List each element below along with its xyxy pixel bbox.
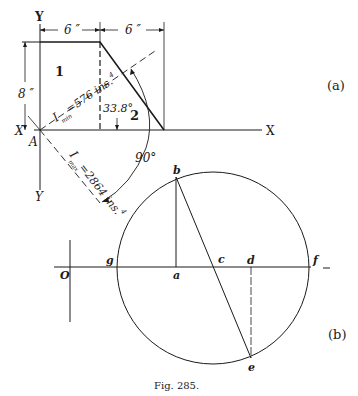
y-axis-label-bottom: Y <box>35 190 44 204</box>
figure-caption: Fig. 285. <box>154 380 199 391</box>
dim-height: 8 ″ <box>18 87 34 101</box>
point-c-label: c <box>218 253 225 266</box>
arrow-icon <box>23 42 27 47</box>
point-e-label: e <box>248 361 255 374</box>
origin-label-o: O <box>60 269 70 282</box>
part-b-label: (b) <box>328 327 346 342</box>
arrow-icon <box>159 28 164 32</box>
mohr-circle-diagram: O g a c d f b e (b) Fig. 285. <box>54 164 346 391</box>
mohr-circle-figure: 6 ″ 6 ″ 8 ″ Y Y X X A 1 2 33.8° I min =5… <box>0 0 358 396</box>
point-d-label: d <box>247 254 255 267</box>
point-g-label: g <box>106 254 114 267</box>
dim-width-right: 6 ″ <box>125 23 141 37</box>
svg-text:=2864 ins.: =2864 ins. <box>76 161 123 217</box>
section-diagram: 6 ″ 6 ″ 8 ″ Y Y X X A 1 2 33.8° I min =5… <box>14 10 345 222</box>
arrow-icon <box>115 125 119 130</box>
origin-label-a: A <box>28 135 38 149</box>
dim-width-left: 6 ″ <box>64 23 80 37</box>
arrow-icon <box>95 28 100 32</box>
arrow-icon <box>40 28 45 32</box>
region-1-label: 1 <box>55 64 64 79</box>
point-b-label: b <box>173 164 181 177</box>
mohr-circle <box>117 172 309 364</box>
y-axis-label-top: Y <box>34 10 44 24</box>
axis-extension <box>28 116 40 130</box>
part-a-label: (a) <box>327 78 345 93</box>
x-axis-label-right: X <box>266 124 275 138</box>
x-axis-label-left: X <box>14 124 24 138</box>
point-a-label: a <box>173 269 180 282</box>
i-max-label: I max =2864 ins. 4 <box>64 147 128 222</box>
arrow-icon <box>23 125 27 130</box>
arrow-icon <box>100 28 105 32</box>
point-f-label: f <box>312 254 320 267</box>
right-angle-label: 90° <box>135 151 156 165</box>
angle-label: 33.8° <box>103 102 133 115</box>
